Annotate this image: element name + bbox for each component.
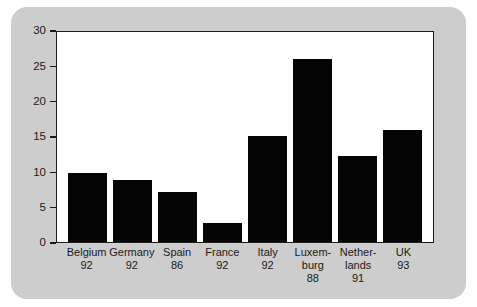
x-axis-label-line: Luxem- [290,246,335,259]
y-axis-tick-label: 10 [33,167,50,179]
y-axis-tick-label: 15 [33,131,50,143]
x-axis-label-year: 92 [64,259,109,272]
bar-slot [335,32,380,242]
bar-spain [158,192,197,242]
bar-luxembourg [293,59,332,242]
x-axis-label-line: Spain [155,246,200,259]
bar-slot [155,32,200,242]
bar-series [57,32,433,242]
bar-slot [290,32,335,242]
y-axis-tick-label: 0 [40,237,50,249]
x-axis-label-germany: Germany92 [109,246,154,285]
bar-belgium [68,173,107,242]
x-axis-label-line: UK [381,246,426,259]
bar-uk [383,130,422,242]
bar-slot [380,32,425,242]
bar-netherlands [338,156,377,242]
x-axis-label-italy: Italy92 [245,246,290,285]
x-axis-label-netherlands: Nether-lands91 [336,246,381,285]
bar-slot [200,32,245,242]
plot-inner [57,32,433,242]
y-axis-tick-label: 5 [40,202,50,214]
x-axis-label-line: France [200,246,245,259]
x-axis-labels: Belgium92Germany92Spain86France92Italy92… [56,246,434,285]
x-axis-label-luxembourg: Luxem-burg88 [290,246,335,285]
bar-slot [110,32,155,242]
x-axis-label-france: France92 [200,246,245,285]
x-axis-label-year: 92 [200,259,245,272]
y-axis: 051015202530 [0,31,56,243]
bar-slot [245,32,290,242]
y-axis-tick-label: 20 [33,96,50,108]
plot-area [56,31,434,243]
x-axis-label-belgium: Belgium92 [64,246,109,285]
x-axis-label-year: 88 [290,272,335,285]
bar-france [203,223,242,242]
x-axis-label-line: Belgium [64,246,109,259]
x-axis-label-spain: Spain86 [155,246,200,285]
x-axis-label-year: 92 [109,259,154,272]
bar-slot [65,32,110,242]
x-axis-label-year: 91 [336,272,381,285]
y-axis-tick-label: 30 [33,25,50,37]
bar-italy [248,136,287,242]
x-axis-label-year: 92 [245,259,290,272]
x-axis-label-year: 93 [381,259,426,272]
x-axis-label-line: Germany [109,246,154,259]
bar-chart-figure: 051015202530 Belgium92Germany92Spain86Fr… [0,0,477,307]
x-axis-label-line: Nether- [336,246,381,259]
x-axis-label-year: 86 [155,259,200,272]
x-axis-label-uk: UK93 [381,246,426,285]
x-axis-label-line: burg [290,259,335,272]
y-axis-tick-label: 25 [33,61,50,73]
x-axis-label-line: Italy [245,246,290,259]
x-axis-label-line: lands [336,259,381,272]
bar-germany [113,180,152,242]
